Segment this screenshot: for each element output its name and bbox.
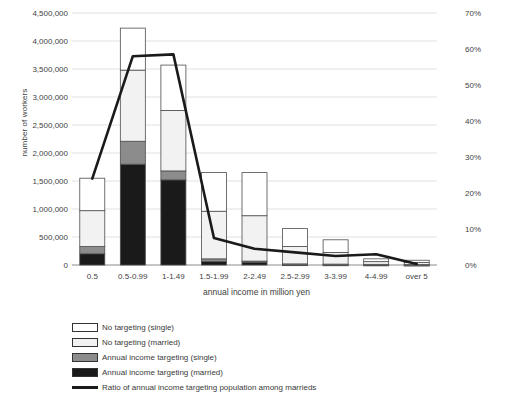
bar-column <box>201 173 226 265</box>
bar-segment <box>80 178 105 210</box>
bar-series-group <box>80 28 429 266</box>
bar-segment <box>80 211 105 247</box>
bar-segment <box>323 240 348 253</box>
bar-segment <box>120 28 145 70</box>
bar-segment <box>242 173 267 216</box>
bar-segment <box>201 262 226 265</box>
bar-segment <box>120 141 145 164</box>
bar-column <box>283 229 308 266</box>
bar-segment <box>283 229 308 247</box>
light-gray-swatch <box>72 338 98 347</box>
legend-item-label: No targeting (married) <box>102 338 180 347</box>
bar-segment <box>364 259 389 262</box>
legend-item[interactable]: Annual income targeting (married) <box>72 365 316 380</box>
chart-legend: No targeting (single)No targeting (marri… <box>72 320 316 395</box>
bar-segment <box>161 180 186 265</box>
black-line-swatch <box>72 386 98 389</box>
legend-item-label: Ratio of annual income targeting populat… <box>102 383 316 392</box>
bar-segment <box>161 65 186 110</box>
black-swatch <box>72 368 98 377</box>
bar-column <box>364 259 389 266</box>
white-swatch <box>72 323 98 332</box>
bar-column <box>80 178 105 265</box>
legend-item-label: Annual income targeting (married) <box>102 368 223 377</box>
bar-segment <box>80 254 105 265</box>
bar-segment <box>120 164 145 265</box>
bar-segment <box>364 262 389 265</box>
bar-segment <box>242 216 267 261</box>
bar-column <box>323 240 348 266</box>
bar-segment <box>201 173 226 212</box>
bar-segment <box>161 171 186 180</box>
legend-item[interactable]: Annual income targeting (single) <box>72 350 316 365</box>
bar-segment <box>283 247 308 264</box>
bar-column <box>120 28 145 265</box>
bar-segment <box>80 247 105 254</box>
bar-column <box>242 173 267 265</box>
legend-item[interactable]: Ratio of annual income targeting populat… <box>72 380 316 395</box>
legend-item[interactable]: No targeting (single) <box>72 320 316 335</box>
legend-item-label: No targeting (single) <box>102 323 174 332</box>
chart-container: number of workers annual income in milli… <box>0 0 513 407</box>
bar-segment <box>161 110 186 170</box>
legend-item[interactable]: No targeting (married) <box>72 335 316 350</box>
legend-item-label: Annual income targeting (single) <box>102 353 217 362</box>
bar-segment <box>201 259 226 262</box>
gray-swatch <box>72 353 98 362</box>
